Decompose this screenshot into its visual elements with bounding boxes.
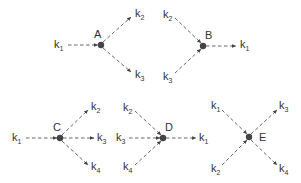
vertex-group-a: A k1 k2 k3 <box>54 7 145 82</box>
terminal-label-e-k2: k2 <box>211 162 221 176</box>
terminal-label-d-k2: k2 <box>123 101 133 115</box>
terminal-label-c-k3: k3 <box>97 131 107 145</box>
edge-e-k1-in <box>222 110 247 134</box>
terminal-label-c-k2: k2 <box>91 100 101 114</box>
terminal-label-c-k1: k1 <box>12 131 22 145</box>
terminal-label-d-k3: k3 <box>116 131 126 145</box>
edge-c-k4-out <box>62 141 88 165</box>
vertex-label-a: A <box>94 28 102 40</box>
edge-e-k4-out <box>251 140 277 165</box>
vertex-label-c: C <box>53 121 61 133</box>
terminal-label-e-k1: k1 <box>211 99 221 113</box>
vertex-label-e: E <box>259 131 266 143</box>
vertex-node-b <box>200 43 206 49</box>
vertex-label-d: D <box>165 121 173 133</box>
vertex-node-d <box>160 135 166 141</box>
vertex-node-e <box>246 134 252 140</box>
edge-d-k4-in <box>135 141 161 165</box>
terminal-label-b-k2: k2 <box>163 8 173 22</box>
vertex-group-e: E k1 k2 k3 k4 <box>211 99 289 176</box>
terminal-label-d-k1: k1 <box>199 131 209 145</box>
edge-b-k3-in <box>175 49 201 73</box>
terminal-label-e-k3: k3 <box>279 99 289 113</box>
vertex-group-c: C k1 k2 k3 k4 <box>12 100 107 174</box>
vertex-node-a <box>98 42 104 48</box>
vertex-group-d: D k2 k3 k4 k1 <box>116 101 209 174</box>
terminal-label-a-k3: k3 <box>135 68 145 82</box>
edge-c-k2-out <box>62 110 88 135</box>
edge-d-k2-in <box>135 111 161 135</box>
edge-e-k2-in <box>222 140 247 165</box>
terminal-label-a-k1: k1 <box>54 38 64 52</box>
vertex-label-b: B <box>205 29 212 41</box>
terminal-label-e-k4: k4 <box>279 162 289 176</box>
terminal-label-c-k4: k4 <box>91 160 101 174</box>
feynman-vertex-diagram: A k1 k2 k3 B k2 k3 k1 C k1 k2 k3 k4 D k2 <box>0 0 301 183</box>
terminal-label-d-k4: k4 <box>123 160 133 174</box>
terminal-label-b-k1: k1 <box>240 38 250 52</box>
vertex-group-b: B k2 k3 k1 <box>163 8 250 84</box>
edge-b-k2-in <box>175 18 201 43</box>
edge-a-k2-out <box>103 17 131 42</box>
terminal-label-b-k3: k3 <box>163 70 173 84</box>
terminal-label-a-k2: k2 <box>135 7 145 21</box>
vertex-node-c <box>57 135 63 141</box>
edge-a-k3-out <box>103 48 131 72</box>
